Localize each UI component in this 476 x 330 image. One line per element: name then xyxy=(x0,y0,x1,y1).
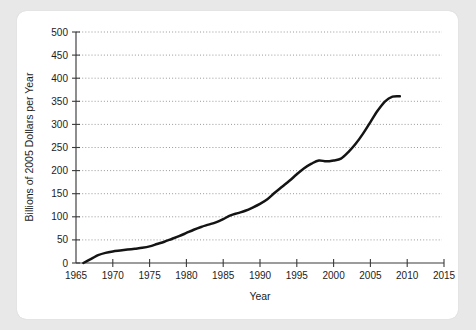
x-tick-label: 1970 xyxy=(102,270,125,281)
x-tick-label: 2000 xyxy=(322,270,345,281)
y-tick-label: 150 xyxy=(51,188,68,199)
line-chart: 050100150200250300350400450500 196519701… xyxy=(17,11,458,319)
x-tick-label: 1980 xyxy=(175,270,198,281)
data-series-line xyxy=(83,96,399,263)
y-tick-label: 100 xyxy=(51,211,68,222)
x-tick-label: 1990 xyxy=(249,270,272,281)
y-tick-label: 400 xyxy=(51,73,68,84)
x-tick-label: 2005 xyxy=(359,270,382,281)
y-tick-label: 500 xyxy=(51,27,68,38)
x-axis-tick-labels: 1965197019751980198519901995200020052010… xyxy=(65,270,456,281)
y-tick-label: 50 xyxy=(57,234,69,245)
x-tick-label: 1985 xyxy=(212,270,235,281)
x-tick-label: 1975 xyxy=(138,270,161,281)
x-tick-label: 1965 xyxy=(65,270,88,281)
x-tick-label: 1995 xyxy=(286,270,309,281)
y-tick-label: 300 xyxy=(51,119,68,130)
y-axis-tick-labels: 050100150200250300350400450500 xyxy=(51,27,68,269)
y-axis-title: Billions of 2005 Dollars per Year xyxy=(23,72,35,221)
gridlines xyxy=(76,32,442,240)
x-axis-title: Year xyxy=(249,290,271,302)
y-tick-label: 450 xyxy=(51,50,68,61)
y-tick-label: 350 xyxy=(51,96,68,107)
y-tick-label: 200 xyxy=(51,165,68,176)
y-tick-label: 250 xyxy=(51,142,68,153)
y-tick-label: 0 xyxy=(62,258,68,269)
x-tick-label: 2015 xyxy=(433,270,456,281)
x-tick-label: 2010 xyxy=(396,270,419,281)
chart-card: 050100150200250300350400450500 196519701… xyxy=(17,11,458,319)
